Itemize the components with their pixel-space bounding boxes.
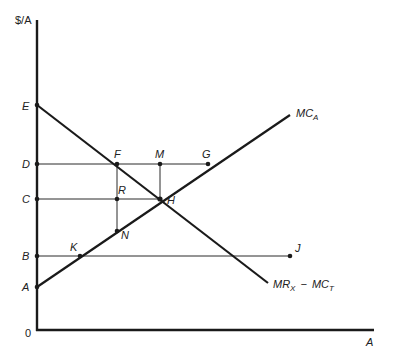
point-g — [206, 162, 211, 167]
label-j: J — [294, 242, 301, 254]
origin-label: 0 — [25, 327, 31, 339]
point-m — [158, 162, 163, 167]
label-e: E — [22, 100, 30, 112]
point-j — [288, 254, 293, 259]
point-b — [35, 254, 40, 259]
label-n: N — [121, 229, 129, 241]
point-h — [157, 196, 162, 201]
label-m: M — [155, 148, 165, 160]
label-c: C — [22, 193, 30, 205]
point-n — [115, 229, 120, 234]
label-r: R — [118, 184, 126, 196]
mr-minus-mc-label: MRX−MCT — [273, 278, 335, 293]
point-d — [35, 162, 40, 167]
label-h: H — [167, 194, 175, 206]
point-f — [115, 162, 120, 167]
point-a — [35, 285, 40, 290]
point-k — [78, 254, 83, 259]
label-k: K — [70, 241, 78, 253]
y-axis-label: $/A — [15, 14, 32, 26]
point-e — [35, 103, 40, 108]
mc-a-label: MCA — [296, 107, 318, 122]
label-a: A — [21, 281, 29, 293]
label-b: B — [22, 250, 29, 262]
label-d: D — [22, 158, 30, 170]
point-c — [35, 197, 40, 202]
label-g: G — [202, 148, 211, 160]
x-axis-label: A — [365, 336, 373, 348]
label-f: F — [114, 148, 122, 160]
point-r — [115, 197, 120, 202]
economics-diagram: $/A A 0 MCA MRX−MCT E D C B A F M G R H … — [0, 0, 393, 359]
mc-a-line — [37, 115, 290, 287]
